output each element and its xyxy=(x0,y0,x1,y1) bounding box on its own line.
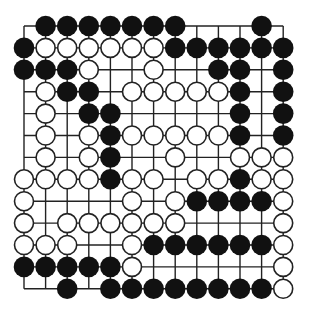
black-stone xyxy=(187,191,208,212)
black-stone xyxy=(230,169,251,190)
black-stone xyxy=(122,279,143,300)
white-stone xyxy=(123,170,142,189)
white-stone xyxy=(36,38,55,57)
black-stone xyxy=(208,279,229,300)
white-stone xyxy=(274,279,293,298)
white-stone xyxy=(166,82,185,101)
black-stone xyxy=(208,38,229,59)
black-stone xyxy=(230,191,251,212)
white-stone xyxy=(144,82,163,101)
black-stone xyxy=(165,38,186,59)
black-stone xyxy=(57,279,78,300)
white-stone xyxy=(123,82,142,101)
white-stone xyxy=(252,170,271,189)
black-stone xyxy=(251,191,272,212)
white-stone xyxy=(209,126,228,145)
black-stone xyxy=(208,60,229,81)
white-stone xyxy=(123,257,142,276)
black-stone xyxy=(187,279,208,300)
white-stone xyxy=(79,170,98,189)
white-stone xyxy=(144,214,163,233)
go-board[interactable] xyxy=(0,0,309,312)
black-stone xyxy=(143,235,164,256)
black-stone xyxy=(208,191,229,212)
black-stone xyxy=(79,16,100,37)
white-stone xyxy=(123,192,142,211)
white-stone xyxy=(79,214,98,233)
black-stone xyxy=(100,169,121,190)
black-stone xyxy=(35,257,56,278)
black-stone xyxy=(230,38,251,59)
black-stone xyxy=(122,16,143,37)
white-stone xyxy=(144,60,163,79)
white-stone xyxy=(79,60,98,79)
black-stone xyxy=(100,279,121,300)
white-stone xyxy=(101,214,120,233)
black-stone xyxy=(57,16,78,37)
white-stone xyxy=(58,38,77,57)
white-stone xyxy=(274,257,293,276)
black-stone xyxy=(57,60,78,81)
black-stone xyxy=(273,60,294,81)
white-stone xyxy=(123,38,142,57)
white-stone xyxy=(252,148,271,167)
black-stone xyxy=(230,81,251,102)
black-stone xyxy=(100,257,121,278)
black-stone xyxy=(273,38,294,59)
black-stone xyxy=(79,81,100,102)
black-stone xyxy=(79,103,100,124)
white-stone xyxy=(144,38,163,57)
white-stone xyxy=(166,148,185,167)
black-stone xyxy=(251,16,272,37)
white-stone xyxy=(15,214,34,233)
black-stone xyxy=(273,103,294,124)
white-stone xyxy=(58,236,77,255)
black-stone xyxy=(100,147,121,168)
black-stone xyxy=(35,16,56,37)
black-stone xyxy=(230,279,251,300)
white-stone xyxy=(274,236,293,255)
white-stone xyxy=(144,126,163,145)
white-stone xyxy=(15,170,34,189)
black-stone xyxy=(230,125,251,146)
black-stone xyxy=(251,38,272,59)
black-stone xyxy=(14,257,35,278)
black-stone xyxy=(230,103,251,124)
black-stone xyxy=(100,125,121,146)
white-stone xyxy=(101,38,120,57)
black-stone xyxy=(79,257,100,278)
white-stone xyxy=(274,148,293,167)
black-stone xyxy=(57,257,78,278)
white-stone xyxy=(58,214,77,233)
white-stone xyxy=(123,236,142,255)
white-stone xyxy=(209,82,228,101)
black-stone xyxy=(187,38,208,59)
white-stone xyxy=(187,126,206,145)
white-stone xyxy=(123,126,142,145)
black-stone xyxy=(35,60,56,81)
white-stone xyxy=(36,170,55,189)
white-stone xyxy=(274,192,293,211)
white-stone xyxy=(58,170,77,189)
white-stone xyxy=(274,170,293,189)
black-stone xyxy=(187,235,208,256)
white-stone xyxy=(36,104,55,123)
black-stone xyxy=(230,60,251,81)
black-stone xyxy=(143,279,164,300)
black-stone xyxy=(208,235,229,256)
white-stone xyxy=(36,126,55,145)
black-stone xyxy=(14,60,35,81)
white-stone xyxy=(79,126,98,145)
black-stone xyxy=(273,125,294,146)
white-stone xyxy=(123,214,142,233)
black-stone xyxy=(14,38,35,59)
white-stone xyxy=(15,236,34,255)
black-stone xyxy=(143,16,164,37)
black-stone xyxy=(251,279,272,300)
white-stone xyxy=(36,236,55,255)
white-stone xyxy=(187,82,206,101)
white-stone xyxy=(79,38,98,57)
white-stone xyxy=(166,126,185,145)
white-stone xyxy=(187,170,206,189)
white-stone xyxy=(36,148,55,167)
